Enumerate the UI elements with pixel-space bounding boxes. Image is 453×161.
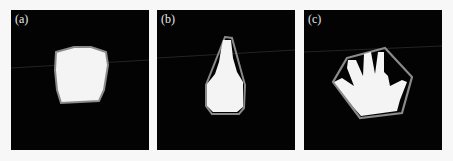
blob-shape — [55, 47, 108, 103]
blob-mask-image — [11, 10, 149, 150]
panel-a: (a) — [11, 10, 149, 150]
panel-label-b: (b) — [161, 12, 175, 26]
panel-label-a: (a) — [15, 12, 28, 26]
panel-c: (c) — [304, 10, 442, 150]
panel-label-c: (c) — [308, 12, 321, 26]
bottle-mask-image — [157, 10, 295, 150]
hand-mask-image — [304, 10, 442, 150]
panel-b: (b) — [157, 10, 295, 150]
bottle-shape — [207, 40, 243, 112]
